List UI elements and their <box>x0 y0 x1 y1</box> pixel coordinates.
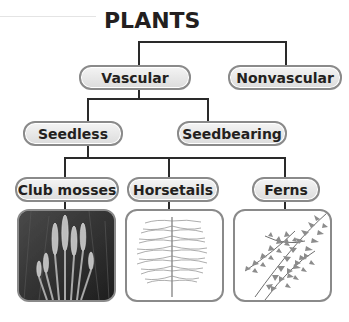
club-mosses-photo <box>17 209 116 302</box>
node-seedless: Seedless <box>23 121 123 146</box>
horsetails-illustration <box>125 209 224 302</box>
connector-to-horsetails <box>168 157 170 178</box>
node-club-mosses: Club mosses <box>15 177 119 202</box>
horsetail-icon <box>127 211 222 300</box>
node-nonvascular: Nonvascular <box>228 65 342 90</box>
fern-icon <box>235 211 330 300</box>
connector-to-ferns <box>284 157 286 178</box>
node-ferns: Ferns <box>252 177 320 202</box>
connector-root-horizontal <box>138 41 287 43</box>
connector-to-seedless <box>87 98 89 121</box>
connector-to-vascular <box>138 41 140 65</box>
connector-seedless-horizontal <box>64 157 286 159</box>
node-vascular: Vascular <box>79 65 191 90</box>
ferns-illustration <box>233 209 332 302</box>
connector-vascular-horizontal <box>87 98 209 100</box>
node-seedbearing: Seedbearing <box>177 121 287 146</box>
connector-to-club-mosses <box>64 157 66 178</box>
decorative-rule <box>0 16 96 17</box>
node-horsetails: Horsetails <box>127 177 219 202</box>
connector-to-nonvascular <box>285 41 287 65</box>
connector-to-seedbearing <box>207 98 209 121</box>
club-moss-icon <box>19 211 114 300</box>
diagram-title: PLANTS <box>104 8 194 33</box>
